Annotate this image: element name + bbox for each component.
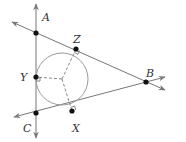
label-z: Z: [72, 33, 81, 46]
label-c: C: [23, 122, 32, 135]
point-y: [33, 74, 38, 79]
geometry-diagram: A Z B X C Y: [0, 0, 186, 142]
point-c: [33, 110, 38, 115]
point-a: [33, 30, 38, 35]
label-b: B: [145, 67, 154, 80]
label-y: Y: [20, 71, 29, 84]
point-x: [69, 108, 74, 113]
point-z: [73, 46, 78, 51]
label-x: X: [71, 122, 81, 135]
label-a: A: [41, 11, 50, 24]
point-b: [143, 79, 148, 84]
radius-to-x: [62, 79, 72, 111]
